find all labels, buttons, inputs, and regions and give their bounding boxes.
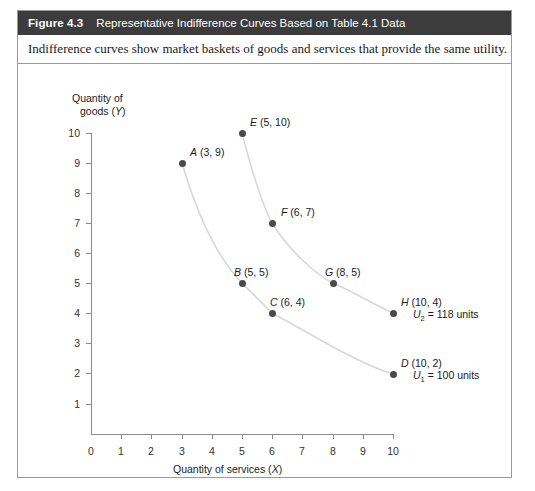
- data-point-letter-A: A: [190, 146, 197, 158]
- data-point-letter-E: E: [250, 116, 257, 128]
- data-point-C[interactable]: [269, 310, 276, 317]
- data-point-label-A: A (3, 9): [190, 146, 224, 158]
- data-point-letter-H: H: [401, 296, 409, 308]
- data-point-coords-F: (6, 7): [287, 206, 314, 218]
- curve-label-u1-letter: U: [413, 369, 421, 381]
- figure-number: Figure 4.3: [28, 17, 83, 29]
- data-point-letter-C: C: [270, 296, 278, 308]
- curve-u2: [242, 133, 393, 313]
- curve-label-u2: U2 = 118 units: [413, 308, 479, 323]
- data-point-E[interactable]: [239, 130, 246, 137]
- data-point-G[interactable]: [330, 280, 337, 287]
- data-point-coords-A: (3, 9): [197, 146, 224, 158]
- data-point-coords-H: (10, 4): [409, 296, 442, 308]
- figure-frame: Figure 4.3 Representative Indifference C…: [17, 10, 512, 478]
- curve-label-u1: U1 = 100 units: [413, 369, 479, 384]
- data-point-A[interactable]: [179, 160, 186, 167]
- data-point-letter-D: D: [401, 357, 409, 369]
- figure-caption-row: Indifference curves show market baskets …: [18, 35, 511, 64]
- data-point-label-G: G (8, 5): [325, 266, 361, 278]
- data-point-label-C: C (6, 4): [270, 296, 305, 308]
- data-point-B[interactable]: [239, 280, 246, 287]
- data-point-F[interactable]: [269, 220, 276, 227]
- figure-caption-text: Indifference curves show market baskets …: [28, 41, 507, 57]
- data-point-H[interactable]: [390, 310, 397, 317]
- data-point-coords-D: (10, 2): [409, 357, 442, 369]
- figure-container: Figure 4.3 Representative Indifference C…: [0, 0, 535, 491]
- data-point-coords-C: (6, 4): [278, 296, 305, 308]
- curve-label-u1-rest: = 100 units: [425, 369, 480, 381]
- data-point-label-D: D (10, 2): [401, 357, 442, 369]
- data-point-label-F: F (6, 7): [281, 206, 315, 218]
- data-point-coords-G: (8, 5): [333, 266, 360, 278]
- figure-title: Representative Indifference Curves Based…: [96, 17, 405, 29]
- data-point-coords-E: (5, 10): [257, 116, 290, 128]
- data-point-D[interactable]: [390, 371, 397, 378]
- data-point-label-H: H (10, 4): [401, 296, 442, 308]
- data-point-letter-B: B: [234, 266, 241, 278]
- data-point-letter-G: G: [325, 266, 333, 278]
- data-point-coords-B: (5, 5): [241, 266, 268, 278]
- data-point-label-E: E (5, 10): [250, 116, 290, 128]
- curve-label-u2-rest: = 118 units: [425, 308, 479, 320]
- figure-header-bar: Figure 4.3 Representative Indifference C…: [18, 11, 511, 35]
- data-point-label-B: B (5, 5): [234, 266, 268, 278]
- chart-plot-area: Quantity of goods (Y) 10 9 8 7: [18, 64, 511, 478]
- curve-label-u2-letter: U: [413, 308, 421, 320]
- curve-u1: [182, 163, 393, 374]
